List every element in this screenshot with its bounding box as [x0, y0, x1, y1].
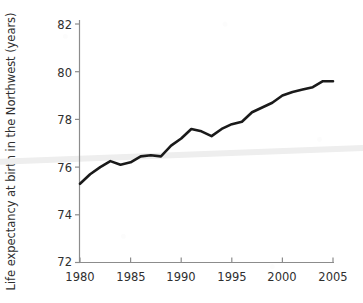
life-expectancy-line-chart: Life expectancy at birth in the Northwes… [0, 0, 363, 303]
plot-area [0, 0, 363, 303]
data-series-line [80, 81, 333, 184]
reference-trend-band [0, 148, 363, 162]
x-axis-ticks [80, 258, 333, 263]
